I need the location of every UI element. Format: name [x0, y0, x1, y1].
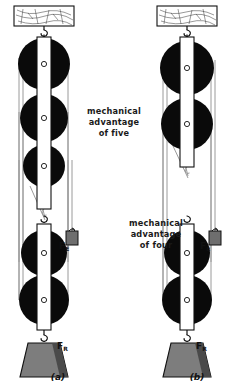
load-hook-b [184, 330, 190, 341]
figure-canvas: mechanical advantage of five mechanical … [0, 0, 249, 392]
block-frame-a2 [37, 224, 51, 330]
fixed-block-b [160, 37, 214, 167]
pulley-diagram-svg [0, 0, 249, 392]
panel-a [14, 6, 78, 377]
fixed-block-a [18, 37, 70, 209]
resistance-force-label-b: FR [196, 341, 207, 351]
ceiling-hook-a [41, 26, 47, 37]
ma-label-a-line1: mechanical [78, 106, 150, 117]
effort-force-label-b: FE [200, 241, 211, 251]
mechanical-advantage-label-a: mechanical advantage of five [78, 106, 150, 139]
mechanical-advantage-label-b: mechanical advantage of four [120, 218, 192, 251]
resistance-force-subscript-a: R [63, 345, 68, 352]
resistance-force-subscript-b: R [202, 345, 207, 352]
load-hook-a [41, 330, 47, 341]
ma-label-b-line3: of four [120, 240, 192, 251]
ma-label-b-line1: mechanical [120, 218, 192, 229]
ceiling-hook-b [184, 26, 190, 37]
block-frame-b [180, 37, 194, 167]
ceiling-mount-b [157, 6, 217, 26]
panel-b [157, 6, 221, 377]
resistance-force-label-a: FR [57, 341, 68, 351]
panel-caption-a: (a) [38, 372, 78, 382]
panel-caption-b: (b) [177, 372, 217, 382]
ma-label-a-line3: of five [78, 128, 150, 139]
effort-force-subscript-b: E [206, 245, 210, 252]
movable-block-a [19, 216, 69, 330]
ma-label-b-line2: advantage [120, 229, 192, 240]
ma-label-a-line2: advantage [78, 117, 150, 128]
effort-weight-b [209, 228, 221, 245]
effort-force-subscript-a: E [65, 245, 69, 252]
ceiling-mount-a [14, 6, 74, 26]
effort-force-label-a: FE [59, 241, 70, 251]
